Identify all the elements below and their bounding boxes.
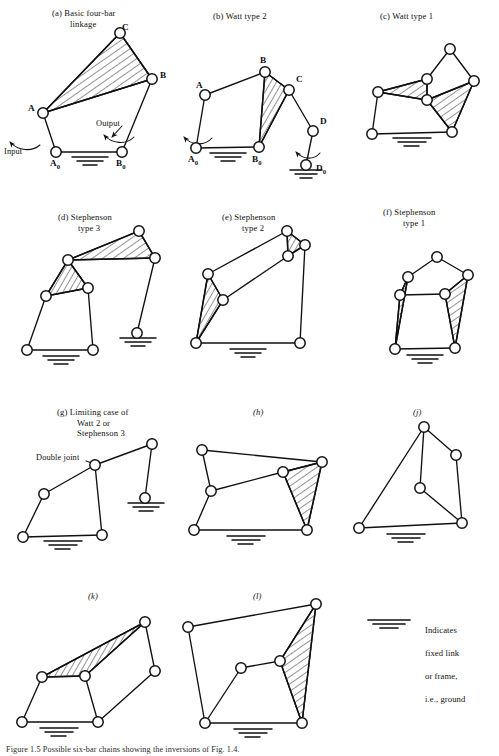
- joint-e-6: [191, 338, 201, 348]
- panel-b-tag: (b): [213, 11, 223, 21]
- joint-B: [147, 74, 157, 84]
- panel-g-title-line3: Stephenson 3: [77, 428, 125, 438]
- joint-h-2: [197, 445, 207, 455]
- panel-j-tag: (j): [413, 407, 422, 418]
- panel-b-title: (b) Watt type 2: [213, 11, 267, 22]
- label-g-double-joint: Double joint: [36, 453, 79, 464]
- panel-l-linkage: [183, 599, 321, 737]
- panel-g-title-line1: Limiting case of: [70, 407, 129, 417]
- ground-symbol-a: [72, 157, 108, 165]
- joint-b-C: [284, 85, 294, 95]
- joint-d-2: [63, 255, 73, 265]
- label-b-C: C: [296, 74, 303, 85]
- joint-k-4: [150, 666, 160, 676]
- joint-g-5: [18, 532, 28, 542]
- panel-d-title-line2: type 3: [78, 223, 100, 233]
- joint-k-1: [140, 617, 150, 627]
- panel-f-title: (f) Stephensontype 1: [383, 207, 435, 228]
- joint-b-D: [308, 126, 318, 136]
- joint-c-4: [373, 87, 383, 97]
- legend-ground-icon: [368, 620, 410, 628]
- joint-A0: [51, 147, 61, 157]
- panel-d-title-line1: Stephenson: [71, 212, 112, 222]
- joint-j-1: [419, 422, 429, 432]
- joint-d-7: [22, 345, 32, 355]
- panel-a-title: (a) Basic four-barlinkage: [52, 8, 156, 29]
- joint-f-1: [432, 252, 442, 262]
- joint-b-A: [200, 90, 210, 100]
- joint-k-6: [93, 717, 103, 727]
- panel-d-linkage: [22, 226, 160, 364]
- joint-d-8: [88, 345, 98, 355]
- joint-g-double: [90, 460, 100, 470]
- label-a-B: B: [160, 70, 166, 81]
- panel-l-tag: (l): [253, 591, 262, 602]
- joint-k-2: [37, 672, 47, 682]
- joint-e-5: [218, 295, 228, 305]
- label-a-C: C: [122, 22, 129, 33]
- joint-d-3: [150, 253, 160, 263]
- ground-symbol-l: [234, 729, 272, 737]
- joint-k-3: [80, 671, 90, 681]
- ground-symbol-k: [40, 728, 78, 736]
- joint-c-5: [422, 95, 432, 105]
- joint-d-1: [134, 226, 144, 236]
- ground-symbol-j: [387, 534, 425, 542]
- panel-g-title: (g) Limiting case ofWatt 2 orStephenson …: [57, 407, 129, 439]
- joint-c-3: [469, 76, 479, 86]
- legend-line-1: Indicates: [425, 625, 457, 635]
- ground-symbol-e: [230, 349, 266, 357]
- joint-l-3: [275, 656, 285, 666]
- joint-d-5: [41, 291, 51, 301]
- label-a-input: Input: [4, 147, 22, 158]
- label-b-B: B: [260, 55, 266, 66]
- legend-line-3: or frame,: [425, 671, 457, 681]
- panel-e-title-line1: Stephenson: [234, 212, 275, 222]
- joint-e-1: [282, 226, 292, 236]
- label-b-D: D: [320, 116, 327, 127]
- legend-line-2: fixed link: [425, 648, 459, 658]
- joint-j-5: [457, 518, 467, 528]
- panel-h-tag: (h): [253, 407, 263, 418]
- panel-d-tag: (d): [58, 212, 68, 222]
- figure-caption: Figure 1.5 Possible six-bar chains showi…: [6, 745, 436, 756]
- label-b-D0: D0: [316, 163, 326, 177]
- legend-line-4: i.e., ground: [425, 694, 465, 704]
- joint-j-4: [354, 523, 364, 533]
- joint-j-2: [451, 450, 461, 460]
- joint-b-B0: [254, 142, 264, 152]
- joint-h-6: [302, 525, 312, 535]
- joint-l-6: [297, 718, 307, 728]
- panel-e-title-line2: type 2: [242, 223, 264, 233]
- panel-f-tag: (f): [383, 207, 392, 217]
- joint-d-4: [83, 283, 93, 293]
- joint-g-1: [147, 439, 157, 449]
- panel-a-title-line1: Basic four-bar: [64, 8, 115, 18]
- joint-l-1: [311, 599, 321, 609]
- panel-g-title-line2: Watt 2 or: [77, 418, 110, 428]
- label-a-A0: A0: [50, 158, 60, 172]
- ground-symbol-b-left: [210, 153, 246, 161]
- joint-b-B: [260, 67, 270, 77]
- panel-e-title: (e) Stephensontype 2: [222, 212, 275, 233]
- joint-h-5: [189, 525, 199, 535]
- panel-a-linkage: [10, 28, 157, 165]
- joint-d-6: [132, 328, 142, 338]
- label-b-A0: A0: [188, 154, 198, 168]
- panel-j-linkage: [354, 422, 467, 542]
- panel-g-tag: (g): [57, 407, 67, 417]
- joint-j-3: [415, 483, 425, 493]
- joint-f-3: [463, 270, 473, 280]
- joint-g-4: [140, 493, 150, 503]
- joint-e-7: [295, 338, 305, 348]
- ground-symbol-c: [393, 138, 431, 146]
- joint-h-4: [206, 486, 216, 496]
- joint-b-A0: [191, 143, 201, 153]
- joint-l-2: [183, 622, 193, 632]
- ground-symbol-g-left: [44, 541, 82, 549]
- joint-l-5: [200, 718, 210, 728]
- panel-a-title-line2: linkage: [70, 19, 96, 29]
- legend-text: Indicates fixed link or frame, i.e., gro…: [416, 613, 465, 717]
- panel-c-title-line1: Watt type 1: [392, 11, 433, 21]
